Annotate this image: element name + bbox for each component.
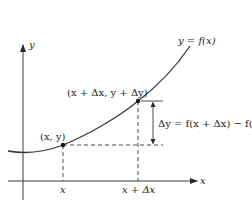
point-x-dx-y-dy: [136, 99, 140, 103]
x-plus-dx-tick-label: x + Δx: [122, 184, 156, 195]
point-x-y: [61, 143, 65, 147]
y-axis-label: y: [28, 39, 35, 50]
curve-label: y = f(x): [177, 35, 216, 46]
x-axis-label: x: [200, 175, 206, 186]
derivative-diagram: y x y = f(x) (x, y) (x + Δx, y + Δy) Δy …: [0, 0, 252, 203]
x-tick-label: x: [60, 184, 66, 195]
delta-y-label: Δy = f(x + Δx) − f(x): [158, 118, 252, 129]
delta-y-arrow-down: [151, 139, 156, 145]
point-x-y-label: (x, y): [40, 131, 66, 142]
point-x-dx-y-dy-label: (x + Δx, y + Δy): [67, 87, 148, 98]
function-curve: [8, 46, 190, 152]
delta-y-arrow-up: [151, 102, 156, 108]
